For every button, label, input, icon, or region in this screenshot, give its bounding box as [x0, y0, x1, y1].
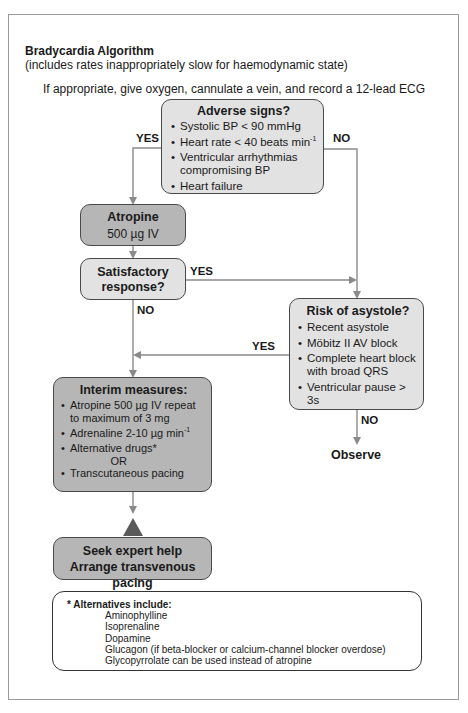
adverse-sign-item: Heart failure: [170, 180, 317, 193]
seek-expert-help-box: Seek expert help Arrange transvenous pac…: [53, 537, 212, 580]
risk-no-label: NO: [361, 414, 378, 426]
atropine-box: Atropine 500 µg IV: [80, 204, 186, 246]
triangle-icon: [123, 518, 143, 536]
interim-item: Adrenaline 2-10 µg min-1: [60, 427, 207, 440]
risk-yes-label: YES: [252, 340, 275, 352]
adverse-no-label: NO: [333, 132, 350, 144]
risk-item: Recent asystole: [297, 321, 419, 334]
alternatives-heading: * Alternatives include:: [67, 599, 407, 610]
risk-item: Complete heart block with broad QRS: [297, 352, 419, 378]
observe-outcome: Observe: [331, 448, 381, 462]
alternative-item: Glycopyrrolate can be used instead of at…: [67, 655, 407, 666]
alternative-item: Glucagon (if beta-blocker or calcium-cha…: [67, 644, 407, 655]
interim-item: Atropine 500 µg IV repeat to maximum of …: [60, 399, 207, 424]
alternative-item: Aminophylline: [67, 610, 407, 621]
risk-of-asystole-box: Risk of asystole? Recent asystole Möbitz…: [289, 298, 424, 410]
interim-item: Alternative drugs*: [60, 442, 207, 455]
atropine-dose: 500 µg IV: [81, 227, 185, 241]
expert-line-2: Arrange transvenous pacing: [54, 559, 211, 591]
satisfactory-yes-label: YES: [190, 265, 213, 277]
interim-item: Transcutaneous pacing: [60, 467, 207, 480]
expert-line-1: Seek expert help: [54, 543, 211, 559]
alternatives-box: * Alternatives include: Aminophylline Is…: [52, 591, 422, 671]
alternative-item: Isoprenaline: [67, 621, 407, 632]
risk-item: Möbitz II AV block: [297, 337, 419, 350]
adverse-signs-title: Adverse signs?: [170, 104, 317, 118]
adverse-signs-box: Adverse signs? Systolic BP < 90 mmHg Hea…: [161, 99, 324, 194]
satisfactory-title-1: Satisfactory: [81, 265, 185, 280]
satisfactory-no-label: NO: [137, 304, 154, 316]
alternative-item: Dopamine: [67, 633, 407, 644]
risk-title: Risk of asystole?: [297, 304, 419, 318]
adverse-sign-item: Systolic BP < 90 mmHg: [170, 120, 317, 133]
interim-title: Interim measures:: [60, 383, 207, 397]
satisfactory-title-2: response?: [81, 280, 185, 295]
adverse-sign-item: Ventricular arrhythmias compromising BP: [170, 151, 317, 177]
atropine-title: Atropine: [81, 210, 185, 224]
satisfactory-response-box: Satisfactory response?: [80, 258, 186, 300]
adverse-yes-label: YES: [136, 132, 159, 144]
interim-or: OR: [60, 455, 178, 468]
adverse-sign-item: Heart rate < 40 beats min-1: [170, 136, 317, 149]
risk-item: Ventricular pause > 3s: [297, 381, 419, 407]
interim-measures-box: Interim measures: Atropine 500 µg IV rep…: [53, 377, 212, 492]
